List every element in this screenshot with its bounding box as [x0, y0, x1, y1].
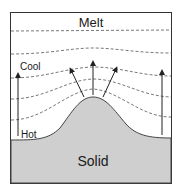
cool-label: Cool	[20, 61, 41, 72]
melt-label: Melt	[79, 15, 104, 30]
hot-label: Hot	[21, 129, 37, 140]
solidification-diagram: Melt Cool Hot Solid	[0, 0, 180, 194]
solid-label: Solid	[77, 153, 108, 169]
